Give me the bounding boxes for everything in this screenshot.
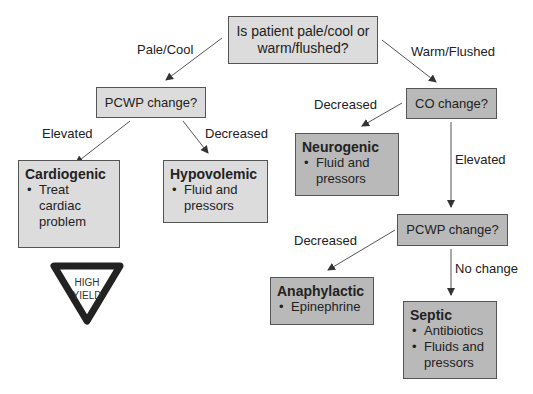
badge-line1: HIGH [63, 276, 111, 289]
pcwp-right-box: PCWP change? [397, 214, 508, 246]
neurogenic-item: Fluid and pressors [302, 155, 392, 187]
cardiogenic-item: Treat cardiac problem [25, 182, 113, 230]
co-change-box: CO change? [406, 88, 497, 119]
high-yield-text: HIGH YIELD [63, 276, 111, 302]
anaphylactic-item: Epinephrine [277, 299, 367, 315]
hypovolemic-item: Fluid and pressors [170, 182, 261, 214]
pcwp-left-box: PCWP change? [96, 87, 206, 118]
badge-line2: YIELD [63, 289, 111, 302]
question-text: Is patient pale/cool or warm/flushed? [229, 23, 377, 57]
neurogenic-box: Neurogenic Fluid and pressors [295, 133, 399, 196]
branch-label-pale-cool: Pale/Cool [137, 42, 193, 57]
question-box: Is patient pale/cool or warm/flushed? [228, 16, 378, 64]
neurogenic-title: Neurogenic [302, 139, 392, 155]
label-decreased-co: Decreased [314, 97, 377, 112]
hypovolemic-title: Hypovolemic [170, 166, 261, 182]
label-elevated-co: Elevated [455, 152, 506, 167]
label-no-change: No change [455, 261, 518, 276]
label-elevated-left: Elevated [42, 126, 93, 141]
pcwp-right-text: PCWP change? [406, 222, 498, 238]
label-decreased-left: Decreased [205, 126, 268, 141]
cardiogenic-title: Cardiogenic [25, 166, 113, 182]
anaphylactic-title: Anaphylactic [277, 283, 367, 299]
hypovolemic-box: Hypovolemic Fluid and pressors [163, 160, 268, 223]
label-decreased-right: Decreased [294, 233, 357, 248]
septic-item: Fluids and pressors [410, 339, 490, 371]
cardiogenic-box: Cardiogenic Treat cardiac problem [18, 160, 120, 248]
septic-title: Septic [410, 307, 490, 323]
anaphylactic-box: Anaphylactic Epinephrine [270, 277, 374, 325]
branch-label-warm-flushed: Warm/Flushed [411, 44, 495, 59]
septic-box: Septic Antibiotics Fluids and pressors [403, 301, 497, 379]
co-change-text: CO change? [415, 96, 488, 112]
septic-item: Antibiotics [410, 323, 490, 339]
pcwp-left-text: PCWP change? [105, 95, 197, 111]
